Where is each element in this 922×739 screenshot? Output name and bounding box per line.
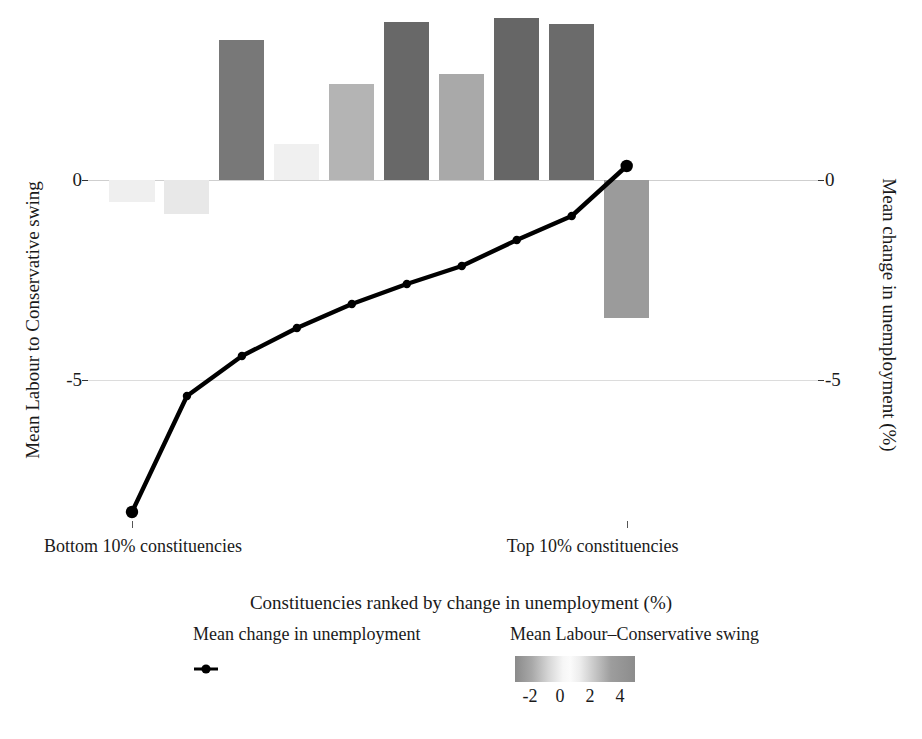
y-axis-left-title: Mean Labour to Conservative swing: [20, 110, 46, 530]
line-series-layer: [88, 0, 818, 520]
y-axis-right-tick-mark: [818, 180, 824, 181]
y-axis-left-tick-label: -5: [66, 370, 82, 389]
legend-colorbar-tick-label: -2: [523, 686, 538, 707]
y-axis-left-tick-mark: [82, 180, 88, 181]
x-axis-tick-label: Bottom 10% constituencies: [44, 536, 242, 557]
line-path: [132, 166, 627, 512]
x-axis-tick-mark: [627, 521, 628, 528]
line-point: [348, 300, 356, 308]
line-point: [403, 280, 411, 288]
y-axis-right-tick-label: -5: [825, 370, 841, 389]
line-point: [183, 392, 191, 400]
line-point: [568, 212, 576, 220]
plot-area: 0-50-5Bottom 10% constituenciesTop 10% c…: [88, 0, 818, 520]
line-point: [293, 324, 301, 332]
line-point: [126, 506, 138, 518]
legend-colorbar: [515, 656, 635, 682]
legend-colorbar-ticks: -2024: [515, 686, 635, 710]
line-point: [238, 352, 246, 360]
x-axis-tick-mark: [132, 521, 133, 528]
y-axis-right-tick-label: 0: [825, 170, 835, 189]
y-axis-right-tick-mark: [818, 380, 824, 381]
line-point: [458, 262, 466, 270]
line-point: [513, 236, 521, 244]
legend-line-key-icon: [193, 662, 219, 676]
legend-colorbar-tick-label: 2: [586, 686, 595, 707]
x-axis-title: Constituencies ranked by change in unemp…: [0, 592, 922, 614]
figure-canvas: Mean Labour to Conservative swing Mean c…: [0, 0, 922, 739]
legend: Mean change in unemployment Mean Labour–…: [0, 624, 922, 734]
legend-colorbar-tick-label: 0: [556, 686, 565, 707]
legend-fill-title: Mean Labour–Conservative swing: [510, 624, 759, 645]
y-axis-right-title: Mean change in unemployment (%): [876, 95, 902, 535]
line-point: [621, 160, 633, 172]
y-axis-left-tick-mark: [82, 380, 88, 381]
x-axis-tick-label: Top 10% constituencies: [507, 536, 679, 557]
y-axis-left-title-text: Mean Labour to Conservative swing: [22, 181, 44, 459]
y-axis-left-tick-label: 0: [73, 170, 83, 189]
y-axis-right-title-text: Mean change in unemployment (%): [878, 178, 900, 451]
legend-line-title: Mean change in unemployment: [193, 624, 420, 645]
legend-colorbar-tick-label: 4: [616, 686, 625, 707]
